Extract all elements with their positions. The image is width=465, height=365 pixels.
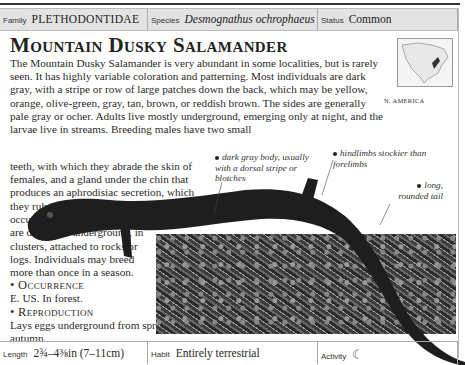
annotation-hindlimbs: hindlimbs stockier than forelimbs bbox=[333, 148, 433, 169]
activity-cell: Activity ☾ bbox=[318, 342, 458, 364]
habit-label: Habit bbox=[151, 350, 170, 359]
length-value: 2¾–4⅜in (7–11cm) bbox=[33, 347, 124, 359]
length-cell: Length 2¾–4⅜in (7–11cm) bbox=[0, 342, 148, 364]
activity-label: Activity bbox=[321, 352, 346, 361]
moon-icon: ☾ bbox=[352, 347, 364, 363]
annotation-tail: long, rounded tail bbox=[398, 180, 443, 201]
habit-value: Entirely terrestrial bbox=[176, 347, 260, 359]
habit-cell: Habit Entirely terrestrial bbox=[148, 342, 318, 364]
footer-bar: Length 2¾–4⅜in (7–11cm) Habit Entirely t… bbox=[0, 341, 458, 364]
annotation-body: dark gray body, usually with a dorsal st… bbox=[215, 152, 325, 184]
length-label: Length bbox=[3, 350, 27, 359]
